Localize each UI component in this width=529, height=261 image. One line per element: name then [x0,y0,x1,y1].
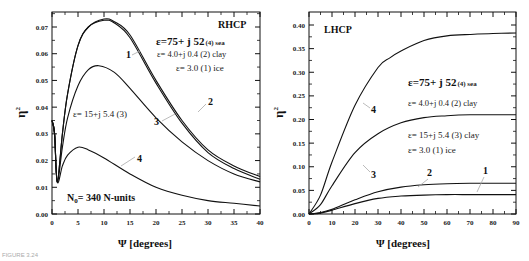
figure-caption: FIGURE 3.24 [2,252,38,258]
x-tick-label: 35 [231,219,239,227]
chart-title: LHCP [324,24,352,35]
legend-ice: ε= 3.0 (1) ice [176,63,224,73]
y-tick-label: 0.04 [36,104,49,112]
y-tick-label: 0.35 [293,45,306,53]
legend-clay: ε= 4.0+j 0.4 (2) clay [408,98,478,108]
y-tick-label: 0.15 [293,140,306,148]
x-tick-label: 0 [307,219,311,227]
y-tick-label: 0.02 [36,157,49,165]
x-tick-label: 10 [101,219,109,227]
y-tick-label: 0.03 [36,130,49,138]
x-axis-label: Ψ [degrees] [376,237,430,249]
legend-3: ε= 15+j 5.4 (3) [73,109,127,119]
x-axis-label: Ψ [degrees] [118,237,172,249]
y-tick-label: 0.30 [293,69,306,77]
curve-label-2: 2 [427,167,432,178]
x-tick-label: 40 [398,219,406,227]
rhcp-chart: 0.000.010.020.030.040.050.060.07 0510152… [13,12,264,249]
y-tick-label: 0.40 [293,22,306,30]
curve-label-3: 3 [154,116,159,127]
curve-label-1: 1 [483,165,488,176]
n0-annotation: N0= 340 N-units [67,192,135,205]
x-tick-label: 25 [179,219,187,227]
curve-label-2: 2 [208,96,213,107]
x-tick-label: 30 [375,219,383,227]
chart-title: RHCP [218,19,246,30]
legend-sea: ε=75+ j 52(4) sea [408,76,477,88]
curves [309,33,516,214]
y-tick-label: 0.00 [36,211,49,219]
curve-4 [309,33,516,214]
y-tick-label: 0.25 [293,92,306,100]
legend-sea: ε=75+ j 52(4) sea [156,35,225,47]
curve-label-1: 1 [126,49,131,60]
x-tick-label: 30 [205,219,213,227]
legend-clay: ε= 4.0+j 0.4 (2) clay [157,49,227,59]
x-tick-label: 50 [421,219,429,227]
y-tick-label: 0.00 [293,211,306,219]
x-tick-label: 40 [257,219,265,227]
x-tick-label: 15 [127,219,135,227]
y-tick-label: 0.10 [293,163,306,171]
curve-label-3: 3 [371,169,376,180]
y-tick-label: 0.06 [36,50,49,58]
curve-label-4: 4 [137,153,142,164]
curve-2 [309,183,516,214]
legend-3-clay: ε= 15+j 5.4 (3) clay [408,130,480,140]
x-tick-label: 0 [50,219,54,227]
y-tick-label: 0.20 [293,116,306,124]
x-tick-label: 5 [76,219,80,227]
curve-label-4: 4 [371,104,376,115]
x-tick-label: 20 [352,219,360,227]
x-tick-label: 60 [444,219,452,227]
x-tick-label: 80 [490,219,498,227]
y-tick-label: 0.01 [36,184,49,192]
figure: 0.000.010.020.030.040.050.060.07 0510152… [0,0,529,261]
lhcp-chart: 0.000.050.100.150.200.250.300.350.40 010… [271,12,520,249]
legend-ice: ε= 3.0 (1) ice [408,145,456,155]
y-tick-label: 0.05 [293,187,306,195]
x-tick-label: 70 [467,219,475,227]
y-ticks: 0.000.050.100.150.200.250.300.350.40 [293,22,516,219]
y-tick-label: 0.05 [36,77,49,85]
y-axis-label: η2 [13,107,28,118]
y-axis-label: η2 [271,107,286,118]
x-tick-label: 20 [153,219,161,227]
y-tick-label: 0.07 [36,24,49,32]
x-tick-label: 10 [329,219,337,227]
x-tick-label: 90 [513,219,521,227]
y-ticks: 0.000.010.020.030.040.050.060.07 [36,14,260,219]
